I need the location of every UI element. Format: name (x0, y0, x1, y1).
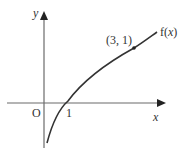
point-marker (132, 46, 136, 50)
curve-label-prefix: f( (160, 25, 168, 39)
y-axis-label: y (32, 6, 39, 20)
curve-label: f(x) (160, 25, 177, 39)
curve-label-suffix: ) (173, 25, 177, 39)
y-axis-arrowhead (40, 11, 48, 20)
point-label: (3, 1) (106, 33, 132, 47)
origin-label: O (32, 106, 41, 120)
x-axis-arrowhead (157, 99, 166, 107)
x-tick-label-1: 1 (66, 106, 72, 120)
function-graph: y x O 1 (3, 1) f(x) (0, 0, 186, 156)
x-axis-label: x (152, 110, 159, 124)
curve-f (47, 32, 157, 143)
